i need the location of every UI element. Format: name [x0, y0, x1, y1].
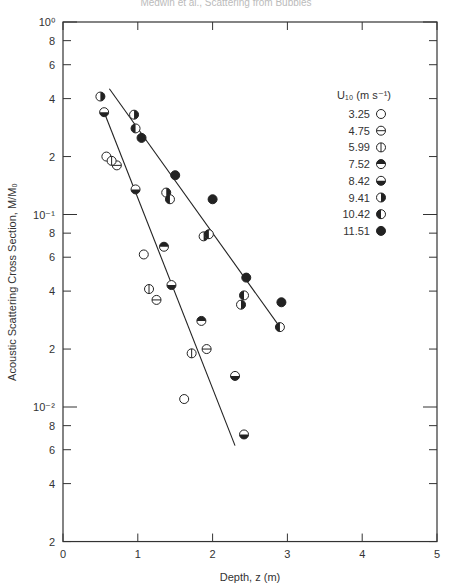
legend-label: 7.52 — [349, 158, 370, 170]
vertical-bar-marker-icon — [107, 156, 116, 165]
horizontal-bar-marker-icon — [152, 295, 161, 304]
legend-label: 10.42 — [342, 208, 370, 220]
y-tick-label: 8 — [49, 420, 55, 432]
bottom-half-filled-marker-icon — [231, 371, 240, 380]
legend-label: 9.41 — [349, 192, 370, 204]
top-half-filled-marker-icon — [377, 160, 386, 169]
y-tick-label: 2 — [49, 343, 55, 355]
lower-fit-line — [104, 112, 235, 445]
legend-label: 4.75 — [349, 125, 370, 137]
fit-lines — [104, 89, 280, 446]
left-half-filled-marker-icon — [165, 195, 174, 204]
left-half-filled-marker-icon — [204, 230, 213, 239]
filled-marker-icon — [242, 273, 251, 282]
x-tick-label: 0 — [60, 548, 66, 560]
horizontal-bar-marker-icon — [377, 126, 386, 135]
y-tick-label: 6 — [49, 251, 55, 263]
x-tick-label: 5 — [434, 548, 440, 560]
y-tick-label: 6 — [49, 444, 55, 456]
y-tick-label: 4 — [49, 478, 55, 490]
legend: U₁₀ (m s⁻¹) 3.254.755.997.528.429.4110.4… — [337, 89, 391, 237]
horizontal-bar-marker-icon — [202, 345, 211, 354]
filled-marker-icon — [171, 171, 180, 180]
legend-label: 5.99 — [349, 141, 370, 153]
y-tick-label: 10⁻² — [33, 401, 55, 413]
filled-marker-icon — [208, 195, 217, 204]
open-marker-icon — [377, 110, 386, 119]
bottom-half-filled-marker-icon — [100, 108, 109, 117]
x-tick-label: 4 — [359, 548, 365, 560]
top-half-filled-marker-icon — [159, 242, 168, 251]
y-tick-label: 4 — [49, 93, 55, 105]
legend-title: U₁₀ (m s⁻¹) — [337, 89, 391, 101]
y-tick-label: 8 — [49, 35, 55, 47]
scatter-chart: Medwin et al., Scattering from Bubbles 1… — [0, 0, 452, 587]
data-points — [96, 92, 286, 439]
y-tick-label: 10⁻¹ — [33, 209, 55, 221]
x-axis-title: Depth, z (m) — [220, 571, 281, 583]
vertical-bar-marker-icon — [187, 349, 196, 358]
y-tick-label: 10⁰ — [39, 16, 56, 28]
y-tick-label: 2 — [49, 151, 55, 163]
top-half-filled-marker-icon — [197, 316, 206, 325]
x-tick-label: 2 — [210, 548, 216, 560]
y-tick-label: 2 — [49, 536, 55, 548]
left-half-filled-marker-icon — [240, 291, 249, 300]
page-header-text: Medwin et al., Scattering from Bubbles — [140, 0, 311, 8]
open-marker-icon — [139, 250, 148, 259]
right-half-filled-marker-icon — [377, 193, 386, 202]
x-tick-label: 1 — [135, 548, 141, 560]
x-tick-label: 3 — [284, 548, 290, 560]
legend-label: 8.42 — [349, 175, 370, 187]
bottom-half-filled-marker-icon — [167, 281, 176, 290]
right-half-filled-marker-icon — [237, 300, 246, 309]
legend-label: 3.25 — [349, 108, 370, 120]
bottom-half-filled-marker-icon — [377, 176, 386, 185]
left-half-filled-marker-icon — [377, 210, 386, 219]
filled-marker-icon — [137, 133, 146, 142]
y-axis-title: Acoustic Scattering Cross Section, M/M₀ — [6, 183, 18, 381]
y-tick-label: 8 — [49, 227, 55, 239]
y-tick-label: 4 — [49, 285, 55, 297]
filled-marker-icon — [277, 298, 286, 307]
legend-label: 11.51 — [343, 225, 370, 237]
open-marker-icon — [180, 395, 189, 404]
y-tick-label: 6 — [49, 59, 55, 71]
vertical-bar-marker-icon — [145, 285, 154, 294]
left-half-filled-marker-icon — [131, 124, 140, 133]
right-half-filled-marker-icon — [96, 92, 105, 101]
left-half-filled-marker-icon — [275, 323, 284, 332]
bottom-half-filled-marker-icon — [240, 430, 249, 439]
bottom-half-filled-marker-icon — [131, 185, 140, 194]
vertical-bar-marker-icon — [377, 143, 386, 152]
right-half-filled-marker-icon — [130, 110, 139, 119]
filled-marker-icon — [377, 226, 386, 235]
x-axis: 012345 — [60, 22, 440, 560]
